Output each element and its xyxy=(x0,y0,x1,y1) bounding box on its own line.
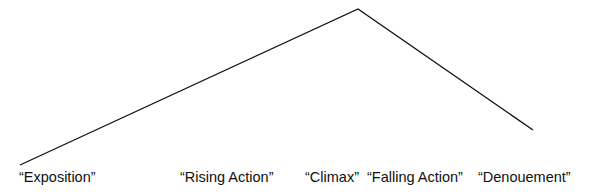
plot-line xyxy=(20,9,533,165)
label-climax: “Climax” xyxy=(305,168,359,186)
label-rising-action: “Rising Action” xyxy=(180,168,273,186)
plot-line-diagram xyxy=(0,0,595,195)
label-falling-action: “Falling Action” xyxy=(367,168,463,186)
label-denouement: “Denouement” xyxy=(478,168,571,186)
label-exposition: “Exposition” xyxy=(19,168,96,186)
